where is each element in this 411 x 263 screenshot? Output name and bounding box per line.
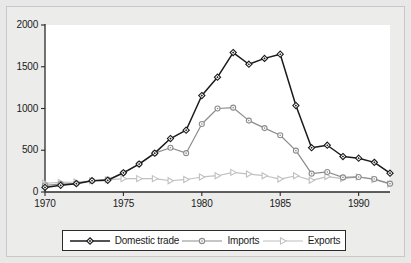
data-point-marker: [309, 171, 314, 176]
legend-item-exports: Exports: [261, 235, 341, 247]
y-tick-label: 1000: [0, 103, 38, 114]
line-chart: 0500100015002000 19701975198019851990 Do…: [0, 0, 411, 263]
chart-legend: Domestic tradeImportsExports: [62, 230, 346, 251]
y-tick-label: 0: [0, 186, 38, 197]
data-point-marker: [200, 238, 205, 243]
legend-label: Exports: [308, 235, 341, 246]
data-point-marker: [86, 237, 93, 244]
legend-marker-diamond-icon: [68, 235, 112, 247]
x-tick-label: 1985: [260, 198, 300, 209]
data-point-marker: [246, 118, 251, 123]
data-point-marker: [231, 105, 236, 110]
legend-item-domestic-trade: Domestic trade: [68, 235, 179, 247]
legend-label: Domestic trade: [115, 235, 179, 246]
data-point-marker: [325, 169, 330, 174]
legend-item-imports: Imports: [180, 235, 259, 247]
x-tick-label: 1990: [339, 198, 379, 209]
plot-canvas: [0, 0, 411, 263]
data-point-marker: [356, 174, 361, 179]
legend-label: Imports: [227, 235, 259, 246]
x-tick-label: 1970: [25, 198, 65, 209]
data-point-marker: [215, 106, 220, 111]
data-point-marker: [372, 177, 377, 182]
y-tick-label: 500: [0, 144, 38, 155]
chart-screenshot: 0500100015002000 19701975198019851990 Do…: [0, 0, 411, 263]
data-point-marker: [168, 145, 173, 150]
x-tick-label: 1980: [182, 198, 222, 209]
y-tick-label: 1500: [0, 61, 38, 72]
legend-marker-circle-icon: [180, 235, 224, 247]
data-point-marker: [280, 237, 286, 243]
data-point-marker: [184, 151, 189, 156]
y-tick-label: 2000: [0, 19, 38, 30]
data-point-marker: [293, 148, 298, 153]
x-tick-label: 1975: [103, 198, 143, 209]
data-point-marker: [262, 126, 267, 131]
legend-marker-triangle-right-icon: [261, 235, 305, 247]
data-point-marker: [278, 133, 283, 138]
data-point-marker: [199, 121, 204, 126]
data-point-marker: [340, 175, 345, 180]
data-point-marker: [388, 181, 393, 186]
